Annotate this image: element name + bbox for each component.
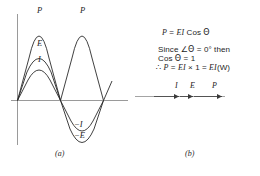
curve-label-i-negative: −I	[74, 120, 83, 129]
caption-panel-a: (a)	[55, 149, 64, 158]
curve-label-p-second: P	[80, 6, 85, 15]
caption-panel-b: (b)	[185, 149, 194, 158]
equation-cos-theta: Cos Θ = 1	[158, 55, 195, 63]
phasor-label-i: I	[175, 82, 178, 90]
figure-root: P P E I −I −E (a) P = EI Cos Θ Since ∠Θ …	[0, 0, 260, 176]
equation-result: ∴ P = EI × 1 = EI(W)	[156, 64, 230, 72]
curve-power-tail	[104, 81, 113, 101]
curve-label-p-first: P	[37, 6, 42, 15]
phasor-label-p: P	[212, 82, 217, 90]
phasor-diagram	[130, 82, 260, 112]
curve-label-i-positive: I	[38, 55, 41, 64]
curve-label-e-negative: −E	[74, 131, 85, 140]
panel-a-waveform-graph: P P E I −I −E (a)	[0, 0, 130, 176]
panel-b-derivation: P = EI Cos Θ Since ∠Θ = 0° then Cos Θ = …	[130, 0, 260, 176]
waveform-plot	[0, 0, 130, 176]
phasor-label-e: E	[190, 82, 195, 90]
equation-power-formula: P = EI Cos Θ	[162, 29, 210, 37]
equation-since-theta: Since ∠Θ = 0° then	[158, 46, 230, 54]
curve-power	[18, 36, 104, 101]
curve-label-e-positive: E	[37, 39, 42, 48]
